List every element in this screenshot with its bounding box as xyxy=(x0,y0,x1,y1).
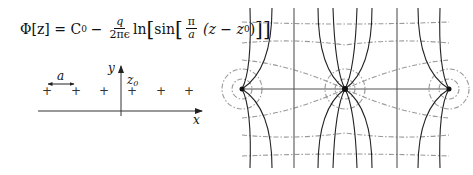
charge-point xyxy=(240,87,245,92)
right-diagram xyxy=(222,8,469,168)
charges: + + + + + + xyxy=(42,84,194,98)
charge-icon: + xyxy=(71,84,81,98)
charge-icon: + xyxy=(42,84,52,98)
charge-icon: + xyxy=(184,84,194,98)
y-axis-label: y xyxy=(107,61,115,75)
charge-icon: + xyxy=(127,84,137,98)
charge-point xyxy=(342,86,348,92)
diagram-canvas: x y z0 a + + + + + + xyxy=(0,0,473,175)
spacing-label: a xyxy=(57,69,64,83)
charge-icon: + xyxy=(99,84,109,98)
charge-point xyxy=(447,87,452,92)
left-diagram: x y z0 a + + + + + + xyxy=(38,61,202,127)
x-axis-label: x xyxy=(193,113,200,127)
charge-icon: + xyxy=(156,84,166,98)
